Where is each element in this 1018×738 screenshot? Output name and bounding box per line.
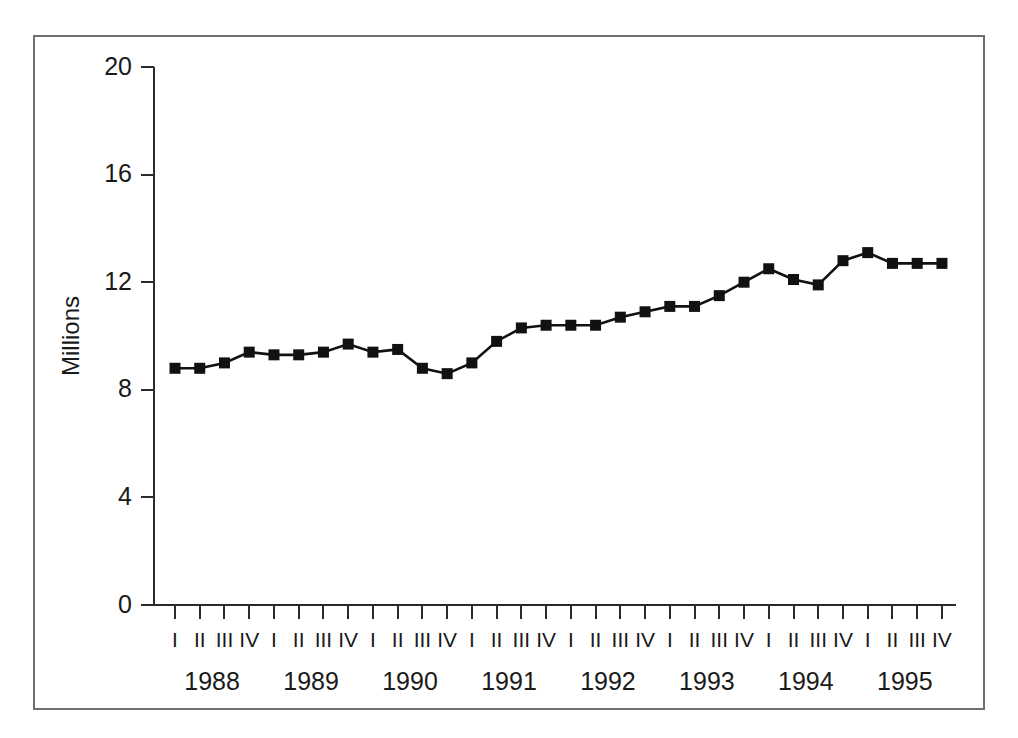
data-point-1989-I bbox=[268, 349, 279, 360]
quarter-label-18: III bbox=[612, 628, 630, 651]
chart-plot-area: 048121620 IIIIIIIVIIIIIIIVIIIIIIIVIIIIII… bbox=[35, 37, 987, 712]
data-point-1990-III bbox=[417, 363, 428, 374]
chart-tick-marks bbox=[141, 67, 942, 619]
quarter-label-14: III bbox=[513, 628, 531, 651]
axis-lines bbox=[154, 67, 956, 605]
year-label-1995: 1995 bbox=[877, 667, 933, 695]
chart-axes bbox=[154, 67, 956, 605]
year-label-1989: 1989 bbox=[283, 667, 339, 695]
quarter-label-29: II bbox=[887, 628, 899, 651]
quarter-label-26: III bbox=[809, 628, 827, 651]
quarter-label-24: I bbox=[766, 628, 772, 651]
quarter-label-13: II bbox=[491, 628, 503, 651]
year-label-1988: 1988 bbox=[184, 667, 240, 695]
data-point-1991-I bbox=[466, 357, 477, 368]
data-point-1994-IV bbox=[837, 255, 848, 266]
figure-frame: 048121620 IIIIIIIVIIIIIIIVIIIIIIIVIIIIII… bbox=[33, 35, 985, 710]
y-tick-label-0: 0 bbox=[118, 590, 132, 618]
quarter-label-12: I bbox=[469, 628, 475, 651]
data-point-1992-I bbox=[565, 320, 576, 331]
quarter-label-19: IV bbox=[635, 628, 655, 651]
data-point-1988-II bbox=[194, 363, 205, 374]
quarter-label-1: II bbox=[194, 628, 206, 651]
quarter-label-30: III bbox=[908, 628, 926, 651]
quarter-label-4: I bbox=[271, 628, 277, 651]
data-point-1991-III bbox=[516, 322, 527, 333]
data-point-1988-I bbox=[170, 363, 181, 374]
y-tick-label-16: 16 bbox=[104, 159, 132, 187]
data-point-1993-IV bbox=[739, 277, 750, 288]
quarter-label-20: I bbox=[667, 628, 673, 651]
data-point-1995-II bbox=[887, 258, 898, 269]
quarter-label-31: IV bbox=[932, 628, 952, 651]
quarter-label-17: II bbox=[590, 628, 602, 651]
data-point-1992-III bbox=[615, 312, 626, 323]
data-series-millions bbox=[170, 247, 948, 379]
year-label-1994: 1994 bbox=[778, 667, 834, 695]
quarter-label-28: I bbox=[865, 628, 871, 651]
quarter-label-2: III bbox=[216, 628, 234, 651]
quarter-label-3: IV bbox=[239, 628, 259, 651]
data-point-1989-III bbox=[318, 347, 329, 358]
quarter-label-7: IV bbox=[338, 628, 358, 651]
data-point-1995-III bbox=[912, 258, 923, 269]
x-axis-year-labels: 19881989199019911992199319941995 bbox=[184, 667, 932, 695]
quarter-label-8: I bbox=[370, 628, 376, 651]
data-point-1992-II bbox=[590, 320, 601, 331]
year-label-1992: 1992 bbox=[580, 667, 636, 695]
data-point-1989-II bbox=[293, 349, 304, 360]
line-chart: 048121620 IIIIIIIVIIIIIIIVIIIIIIIVIIIIII… bbox=[35, 37, 987, 712]
quarter-label-9: II bbox=[392, 628, 404, 651]
quarter-label-10: III bbox=[414, 628, 432, 651]
y-tick-label-20: 20 bbox=[104, 52, 132, 80]
scan-top-text-artifact bbox=[0, 0, 1018, 18]
quarter-label-22: III bbox=[711, 628, 729, 651]
data-point-1993-II bbox=[689, 301, 700, 312]
quarter-label-5: II bbox=[293, 628, 305, 651]
year-label-1993: 1993 bbox=[679, 667, 735, 695]
y-tick-label-4: 4 bbox=[118, 482, 132, 510]
data-point-1995-IV bbox=[936, 258, 947, 269]
data-point-1991-IV bbox=[541, 320, 552, 331]
data-point-1988-IV bbox=[244, 347, 255, 358]
year-label-1990: 1990 bbox=[382, 667, 438, 695]
data-point-1994-III bbox=[813, 279, 824, 290]
data-point-1989-IV bbox=[343, 339, 354, 350]
data-point-1994-I bbox=[763, 263, 774, 274]
data-point-1995-I bbox=[862, 247, 873, 258]
quarter-label-6: III bbox=[315, 628, 333, 651]
quarter-label-0: I bbox=[172, 628, 178, 651]
quarter-label-11: IV bbox=[437, 628, 457, 651]
data-point-1990-II bbox=[392, 344, 403, 355]
x-axis-quarter-labels: IIIIIIIVIIIIIIIVIIIIIIIVIIIIIIIVIIIIIIIV… bbox=[172, 628, 952, 651]
series-polyline bbox=[175, 253, 942, 374]
y-tick-label-8: 8 bbox=[118, 374, 132, 402]
quarter-label-25: II bbox=[788, 628, 800, 651]
data-point-1992-IV bbox=[640, 306, 651, 317]
quarter-label-15: IV bbox=[536, 628, 556, 651]
scan-artifact-text bbox=[120, 0, 126, 2]
data-point-1993-III bbox=[714, 290, 725, 301]
year-label-1991: 1991 bbox=[481, 667, 537, 695]
data-point-1988-III bbox=[219, 357, 230, 368]
y-axis-tick-labels: 048121620 bbox=[104, 52, 132, 618]
quarter-label-23: IV bbox=[734, 628, 754, 651]
data-point-1993-I bbox=[664, 301, 675, 312]
quarter-label-16: I bbox=[568, 628, 574, 651]
y-axis-title: Millions bbox=[57, 296, 84, 376]
quarter-label-21: II bbox=[689, 628, 701, 651]
data-point-1991-II bbox=[491, 336, 502, 347]
y-axis-title-text: Millions bbox=[57, 296, 84, 376]
quarter-label-27: IV bbox=[833, 628, 853, 651]
data-point-1990-I bbox=[367, 347, 378, 358]
data-point-1990-IV bbox=[442, 368, 453, 379]
y-tick-label-12: 12 bbox=[104, 267, 132, 295]
data-point-1994-II bbox=[788, 274, 799, 285]
